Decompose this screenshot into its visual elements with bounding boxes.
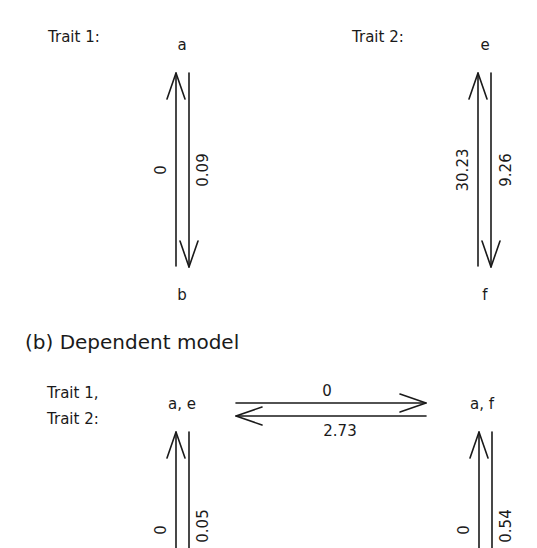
rate-f-to-e: 30.23 [456, 149, 471, 192]
state-f: f [482, 288, 487, 303]
rate-e-to-f: 9.26 [499, 153, 514, 186]
trait2-label: Trait 2: [352, 30, 404, 45]
rate-ae-to-af: 0 [322, 384, 332, 399]
rate-a-to-b: 0.09 [196, 153, 211, 186]
transition-arrows [0, 0, 537, 548]
rate-down-from-af: 0.54 [499, 509, 514, 542]
arrow-up-to-af [470, 432, 488, 548]
rate-up-to-ae: 0 [154, 525, 169, 535]
rate-up-to-af: 0 [457, 525, 472, 535]
rate-af-to-ae: 2.73 [323, 424, 356, 439]
rate-b-to-a: 0 [154, 165, 169, 175]
state-b: b [177, 288, 187, 303]
trait1-label: Trait 1: [48, 30, 100, 45]
trait-label-line1: Trait 1, [47, 386, 98, 401]
state-a: a [177, 38, 186, 53]
state-ae: a, e [168, 397, 196, 412]
arrow-up-to-ae [167, 432, 185, 548]
arrow-b-to-a [167, 73, 185, 266]
arrow-f-to-e [469, 73, 487, 266]
state-e: e [480, 38, 489, 53]
trait-label-line2: Trait 2: [47, 412, 99, 427]
state-af: a, f [470, 397, 494, 412]
panel-b-title: (b) Dependent model [25, 332, 239, 352]
rate-down-from-ae: 0.05 [196, 509, 211, 542]
